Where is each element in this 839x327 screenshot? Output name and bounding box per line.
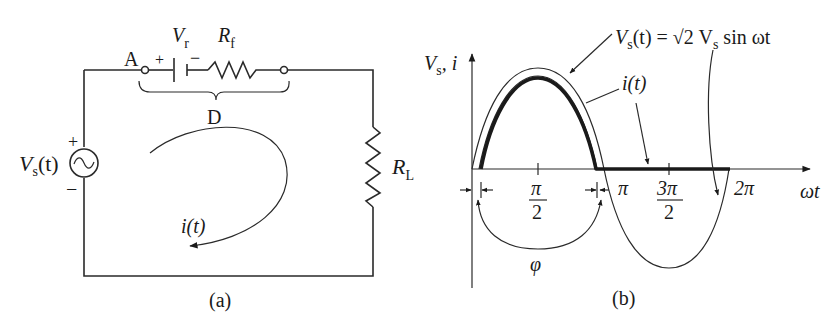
vs-leader-arrow-2 [708,50,718,195]
rl-zigzag [366,127,380,207]
phi-arc-left [478,200,538,249]
resistor-rf: Rf [208,24,281,78]
terminal-a [142,67,149,74]
resistor-rl: RL [366,127,414,207]
phi-label: φ [530,253,541,276]
current-label-a: i(t) [181,215,206,238]
y-axis-label: Vs, i [424,52,457,78]
vr-minus: − [190,48,200,68]
current-leader-arrow [636,103,648,164]
phi-arc-right [538,200,601,249]
tick-label-pi-half-den: 2 [532,201,542,223]
vs-equation-label: Vs(t) = √2 Vs sin ωt [615,26,771,52]
tick-label-two-pi: 2π [734,177,755,199]
tick-label-three-pi-half-den: 2 [664,201,674,223]
rl-label: RL [391,154,414,183]
current-label-b: i(t) [622,72,647,95]
sine-icon [74,158,94,168]
circuit-a: + − Vs(t) A + − Vr Rf D RL [19,24,414,312]
rf-label: Rf [217,24,235,51]
current-loop-arrow [150,127,287,246]
rf-zigzag [208,62,281,78]
source-minus: − [66,178,77,200]
diode-label: D [207,106,221,128]
current-waveform [481,78,730,169]
vs-band-inner [479,76,597,169]
diode-brace [139,81,289,100]
terminal-b [281,67,288,74]
battery-vr: + − Vr [149,24,208,82]
vs-leader-arrow [570,34,612,73]
caption-b: (b) [612,287,635,310]
node-a-label: A [124,48,139,70]
tick-label-pi-half-num: π [531,177,542,199]
source-plus: + [68,132,78,152]
bottom-wire [84,178,373,276]
tick-label-pi: π [618,177,629,199]
ac-source: + − Vs(t) [19,132,98,200]
waveform-b: Vs, i ωt Vs(t) = √2 Vs sin ωt i(t) π 2 π… [424,26,820,310]
current-leader-line [586,89,619,103]
vr-plus: + [155,51,164,68]
vr-label: Vr [172,24,189,51]
diode-rectifier-figure: + − Vs(t) A + − Vr Rf D RL [0,0,839,327]
top-right-wire [287,70,373,127]
tick-label-three-pi-half-num: 3π [656,177,678,199]
caption-a: (a) [209,289,231,312]
source-label: Vs(t) [19,151,59,179]
x-axis-label: ωt [800,180,820,202]
